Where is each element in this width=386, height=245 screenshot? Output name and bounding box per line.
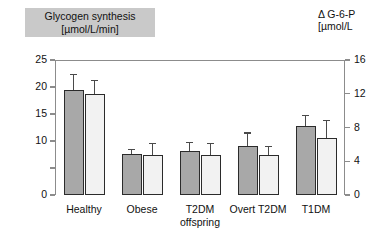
error-bar xyxy=(247,132,248,146)
left-axis-tick xyxy=(50,167,55,168)
bar xyxy=(64,90,84,195)
chart-figure: Glycogen synthesis [µmol/L/min] Δ G-6-P … xyxy=(0,0,386,245)
left-axis-tick xyxy=(50,59,55,60)
left-axis-tick-label: 20 xyxy=(35,80,47,92)
left-axis-title: Glycogen synthesis [µmol/L/min] xyxy=(25,8,155,37)
right-axis-tick-label: 0 xyxy=(354,188,360,200)
right-axis-title-line2: [µmol/L xyxy=(318,20,353,32)
error-bar-cap xyxy=(244,132,251,133)
bar xyxy=(259,155,279,195)
error-bar-cap xyxy=(91,80,98,81)
right-axis-title: Δ G-6-P [µmol/L xyxy=(318,8,384,33)
left-axis-tick xyxy=(50,113,55,114)
x-axis-label: T1DM xyxy=(271,203,361,216)
x-axis-label-line: T1DM xyxy=(271,203,361,216)
error-bar-cap xyxy=(207,143,214,144)
error-bar xyxy=(268,146,269,155)
left-axis-tick xyxy=(50,194,55,195)
bar xyxy=(201,155,221,195)
x-axis-labels: HealthyObeseT2DMoffspringOvert T2DMT1DM xyxy=(55,200,345,240)
right-axis-tick xyxy=(345,59,350,60)
right-axis-tick-label: 8 xyxy=(354,121,360,133)
right-axis-tick xyxy=(345,194,350,195)
bar xyxy=(180,151,200,195)
left-axis-title-line1: Glycogen synthesis xyxy=(44,10,135,22)
bar xyxy=(317,138,337,195)
bar xyxy=(143,155,163,196)
left-axis-tick xyxy=(50,140,55,141)
x-axis-label-line: offspring xyxy=(155,216,245,229)
error-bar-cap xyxy=(302,115,309,116)
right-axis-tick-label: 12 xyxy=(354,87,366,99)
error-bar xyxy=(73,74,74,90)
bar xyxy=(296,126,316,195)
right-axis-tick-label: 16 xyxy=(354,53,366,65)
error-bar xyxy=(189,142,190,151)
error-bar-cap xyxy=(70,74,77,75)
error-bar xyxy=(210,143,211,156)
right-axis-tick xyxy=(345,161,350,162)
right-axis-tick-label: 4 xyxy=(354,154,360,166)
error-bar xyxy=(94,80,95,94)
right-axis-tick xyxy=(345,93,350,94)
bar xyxy=(122,154,142,195)
left-axis-tick-label: 15 xyxy=(35,107,47,119)
error-bar xyxy=(152,143,153,155)
right-axis-tick xyxy=(345,127,350,128)
bar-group xyxy=(122,60,163,195)
bar-group xyxy=(238,60,279,195)
left-axis-tick xyxy=(50,86,55,87)
error-bar xyxy=(326,120,327,138)
bar-group xyxy=(64,60,105,195)
bar xyxy=(238,146,258,195)
error-bar-cap xyxy=(323,120,330,121)
plot-area: 010152025 0481216 xyxy=(55,60,345,195)
left-axis-tick-label: 25 xyxy=(35,53,47,65)
left-axis-tick-label: 0 xyxy=(41,188,47,200)
error-bar-cap xyxy=(265,146,272,147)
left-axis-tick-label: 10 xyxy=(35,134,47,146)
right-axis-title-line1: Δ G-6-P xyxy=(318,8,355,20)
bar xyxy=(85,94,105,195)
bar-group xyxy=(180,60,221,195)
left-axis-title-line2: [µmol/L/min] xyxy=(61,23,118,35)
error-bar xyxy=(305,115,306,127)
left-axis-line xyxy=(55,60,56,195)
error-bar-cap xyxy=(128,149,135,150)
error-bar-cap xyxy=(149,143,156,144)
error-bar-cap xyxy=(186,142,193,143)
bar-group xyxy=(296,60,337,195)
